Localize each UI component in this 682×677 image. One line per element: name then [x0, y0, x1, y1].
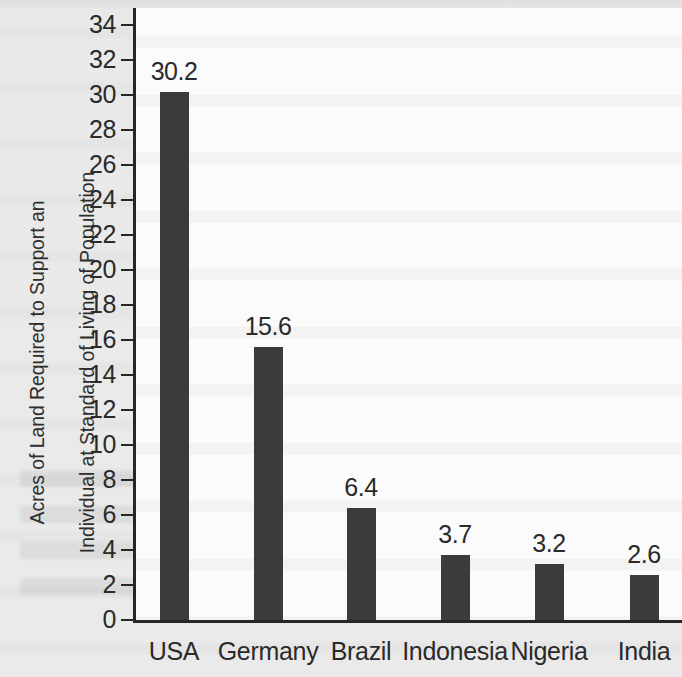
y-axis-tick — [121, 59, 134, 61]
x-axis-category-label: Nigeria — [510, 636, 587, 666]
x-axis-category-label: Germany — [218, 636, 319, 666]
bar — [630, 575, 659, 620]
x-axis-category-labels: USAGermanyBrazilIndonesiaNigeriaIndia — [0, 630, 682, 677]
y-axis-tick-label-text: 32 — [68, 47, 116, 72]
bar-value-label: 3.7 — [415, 522, 495, 547]
bars-layer: 30.215.66.43.73.22.6 — [136, 8, 682, 620]
y-axis-tick-label: 32 — [58, 47, 116, 72]
bar — [160, 92, 189, 620]
bar-value-label: 30.2 — [134, 59, 214, 84]
x-axis-category-label: USA — [149, 636, 200, 666]
y-axis-tick-label-text: 34 — [68, 12, 116, 37]
y-axis-tick-label: 34 — [58, 12, 116, 37]
bar-chart-figure: 0246810121416182022242628303234 Acres of… — [0, 0, 682, 677]
x-axis-category-label: India — [618, 636, 671, 666]
bar — [254, 347, 283, 620]
bar-value-label: 2.6 — [604, 542, 682, 567]
bar-value-label: 3.2 — [509, 531, 589, 556]
x-axis-line — [133, 620, 682, 623]
y-axis-tick — [121, 24, 134, 26]
y-axis-title-line-2: Individual at Standard of Living of Popu… — [75, 83, 100, 643]
bar — [535, 564, 564, 620]
bar-value-label: 15.6 — [228, 314, 308, 339]
bar — [347, 508, 376, 620]
y-axis-title: Acres of Land Required to Support an Ind… — [0, 83, 125, 643]
bar — [441, 555, 470, 620]
y-axis-title-line-1: Acres of Land Required to Support an — [25, 83, 50, 643]
bar-value-label: 6.4 — [321, 475, 401, 500]
x-axis-category-label: Brazil — [331, 636, 392, 666]
x-axis-category-label: Indonesia — [402, 636, 508, 666]
